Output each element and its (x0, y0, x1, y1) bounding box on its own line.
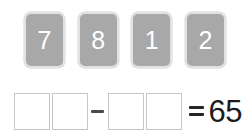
minuend-slot-ones[interactable] (52, 93, 88, 130)
result-value: 65 (209, 96, 242, 127)
equals-bar-bottom (189, 113, 204, 116)
number-tile-tray: 7 8 1 2 (24, 12, 226, 69)
number-tile-digit: 7 (38, 28, 52, 53)
number-tile-3[interactable]: 1 (131, 12, 172, 68)
number-tile-1[interactable]: 7 (24, 12, 65, 68)
subtraction-puzzle: 7 8 1 2 65 (0, 0, 248, 139)
minus-sign-icon (88, 110, 108, 113)
number-tile-digit: 1 (145, 28, 159, 53)
number-tile-4[interactable]: 2 (185, 12, 226, 68)
subtrahend-slot-ones[interactable] (146, 93, 182, 130)
subtrahend-slot-group (108, 93, 182, 130)
number-tile-digit: 2 (199, 28, 213, 53)
equals-sign-icon (186, 106, 208, 116)
number-tile-digit: 8 (91, 28, 105, 53)
minuend-slot-tens[interactable] (14, 93, 50, 130)
subtrahend-slot-tens[interactable] (108, 93, 144, 130)
minuend-slot-group (14, 93, 88, 130)
minus-bar (91, 110, 104, 113)
number-tile-2[interactable]: 8 (78, 12, 119, 68)
equals-bar-top (189, 106, 204, 109)
equation-row: 65 (14, 90, 242, 132)
